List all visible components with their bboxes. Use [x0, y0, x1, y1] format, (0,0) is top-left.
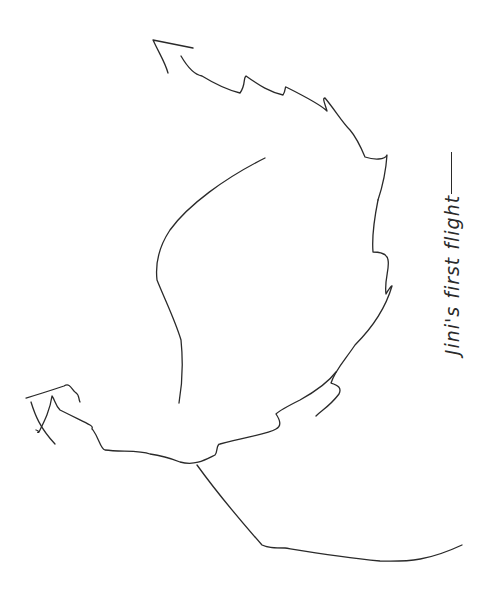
sketch-tail-line [197, 465, 462, 561]
sketch-lower-edge [36, 372, 336, 463]
sketch-right-edge [316, 200, 392, 416]
sketch-left-tip [26, 385, 80, 444]
sketch-inner-arc [157, 158, 265, 403]
sketch-top-tip [153, 40, 193, 73]
handwritten-caption: Jini's first flight [441, 195, 463, 355]
line-sketch [0, 0, 492, 594]
sketch-upper-edge [181, 56, 387, 200]
caption-underline [451, 152, 452, 194]
